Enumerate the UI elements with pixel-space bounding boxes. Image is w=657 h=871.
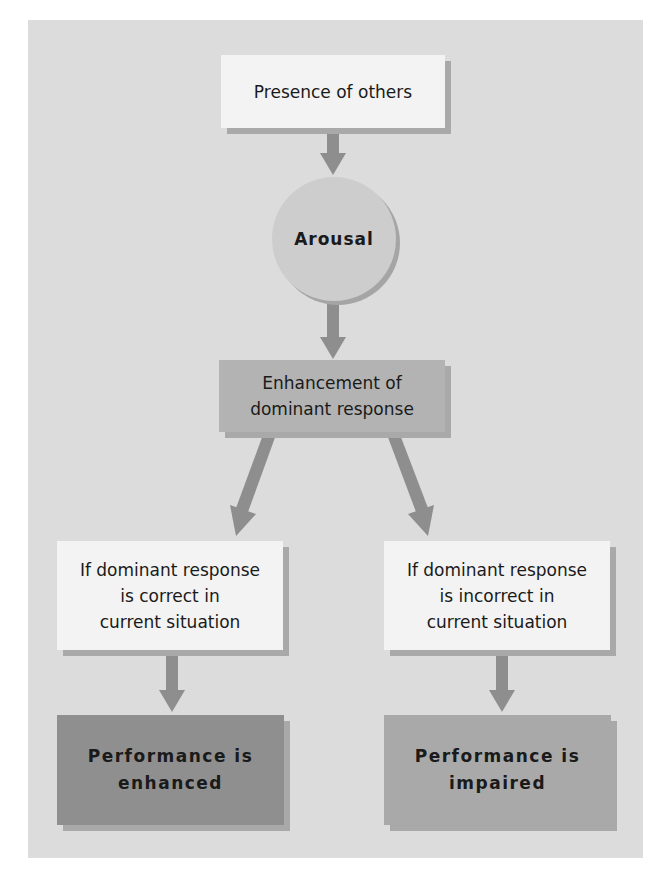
node-label-line1: If dominant response — [80, 557, 260, 583]
node-label: Arousal — [294, 229, 374, 249]
node-label-line1: Performance is — [88, 743, 254, 770]
node-presence-of-others: Presence of others — [221, 55, 445, 128]
node-incorrect-in-situation: If dominant response is incorrect in cur… — [384, 541, 610, 650]
node-enhancement-of-dominant-response: Enhancement of dominant response — [219, 360, 445, 432]
node-performance-impaired: Performance is impaired — [384, 715, 611, 825]
node-label-line3: current situation — [427, 609, 568, 635]
node-label-line2: is correct in — [120, 583, 219, 609]
node-label-line1: If dominant response — [407, 557, 587, 583]
node-label-line2: dominant response — [250, 396, 414, 422]
node-label-line2: impaired — [449, 770, 546, 797]
arrow-correct-to-enhanced — [159, 650, 185, 712]
node-label-line2: is incorrect in — [440, 583, 555, 609]
arrow-enhancement-to-correct — [230, 432, 277, 536]
arrow-enhancement-to-incorrect — [386, 432, 434, 536]
node-arousal: Arousal — [272, 177, 396, 301]
node-label-line1: Performance is — [415, 743, 581, 770]
node-label-line1: Enhancement of — [262, 370, 402, 396]
node-label-line2: enhanced — [118, 770, 223, 797]
node-label-line3: current situation — [100, 609, 241, 635]
arrow-presence-to-arousal — [320, 128, 346, 175]
arrow-arousal-to-enhancement — [320, 300, 346, 359]
node-label: Presence of others — [254, 79, 412, 105]
node-correct-in-situation: If dominant response is correct in curre… — [57, 541, 283, 650]
arrow-incorrect-to-impaired — [489, 650, 515, 712]
node-performance-enhanced: Performance is enhanced — [57, 715, 284, 825]
